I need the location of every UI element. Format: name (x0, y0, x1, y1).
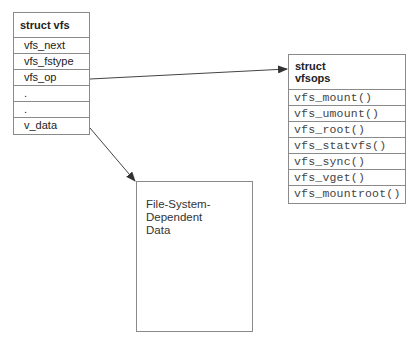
func-vfs-vget: vfs_vget() (289, 170, 405, 186)
field-vfs-op: vfs_op (14, 70, 89, 86)
struct-vfs-title: struct vfs (14, 13, 89, 38)
field-v-data: v_data (14, 118, 89, 134)
arrow-v-data-to-fs-data (90, 128, 135, 181)
struct-vfsops-box: struct vfsops vfs_mount() vfs_umount() v… (288, 54, 406, 204)
func-vfs-umount: vfs_umount() (289, 106, 405, 122)
field-vfs-fstype: vfs_fstype (14, 54, 89, 70)
arrow-vfs-op-to-vfsops (90, 69, 287, 79)
fs-dependent-data-label: File-System- Dependent Data (146, 198, 211, 237)
struct-vfsops-title-line2: vfsops (295, 72, 405, 84)
struct-vfsops-title-line1: struct (295, 60, 405, 72)
field-ellipsis-2: . (14, 102, 89, 118)
func-vfs-mountroot: vfs_mountroot() (289, 186, 405, 202)
struct-vfsops-title: struct vfsops (289, 55, 405, 90)
field-ellipsis-1: . (14, 86, 89, 102)
fs-dependent-data-box: File-System- Dependent Data (136, 181, 253, 332)
struct-vfs-box: struct vfs vfs_next vfs_fstype vfs_op . … (13, 12, 90, 135)
func-vfs-sync: vfs_sync() (289, 154, 405, 170)
func-vfs-statvfs: vfs_statvfs() (289, 138, 405, 154)
func-vfs-root: vfs_root() (289, 122, 405, 138)
func-vfs-mount: vfs_mount() (289, 90, 405, 106)
field-vfs-next: vfs_next (14, 38, 89, 54)
